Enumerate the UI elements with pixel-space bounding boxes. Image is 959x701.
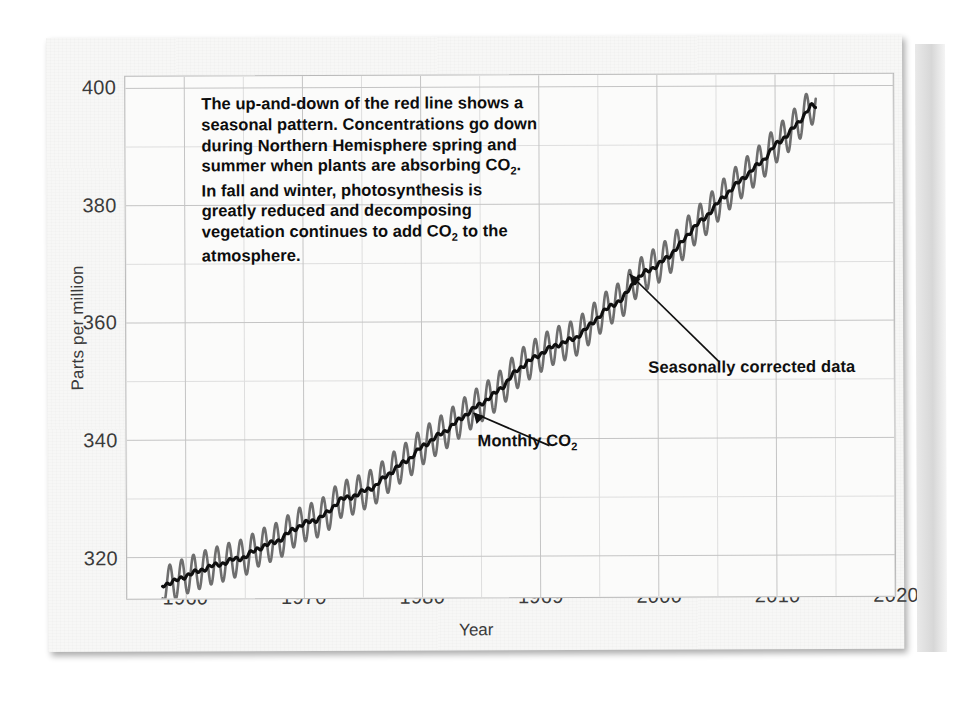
x-axis-title: Year [48,619,904,642]
y-tick-360: 360 [47,311,117,334]
y-axis-tick-labels: 320340360380400 [46,35,902,38]
annotation-line-1: The up-and-down of the red line shows a [201,93,523,112]
x-axis-tick-labels: 1960197019801969200020102020 [46,35,902,38]
annotation-line-6: greatly reduced and decomposing [202,201,472,220]
explanatory-annotation: The up-and-down of the red line shows a … [201,92,587,266]
callout-monthly-co2-subscript: 2 [571,440,577,452]
annotation-line-7b: to the [458,221,508,239]
y-tick-340: 340 [48,429,118,452]
annotation-line-3: during Northern Hemisphere spring and [201,135,516,154]
co2-keeling-curve-figure: Parts per million Year 320340360380400 1… [46,35,904,652]
y-tick-400: 400 [46,76,116,99]
scanned-page: Parts per million Year 320340360380400 1… [46,35,904,652]
callout-monthly-co2: Monthly CO2 [478,431,578,453]
annotation-line-4a: summer when plants are absorbing CO [201,156,510,175]
y-tick-320: 320 [48,547,118,570]
y-tick-380: 380 [47,194,117,217]
callout-seasonally-corrected-label: Seasonally corrected data [648,357,855,376]
annotation-line-4b: . [517,156,522,174]
annotation-line-2: seasonal pattern. Concentrations go down [201,114,537,133]
annotation-line-8: atmosphere. [202,246,301,264]
callout-seasonally-corrected: Seasonally corrected data [648,357,855,377]
annotation-line-7a: vegetation continues to add CO [202,222,452,241]
callout-monthly-co2-label: Monthly CO [478,431,572,449]
annotation-line-5: In fall and winter, photosynthesis is [202,180,483,199]
page-edge-strip [915,44,947,652]
